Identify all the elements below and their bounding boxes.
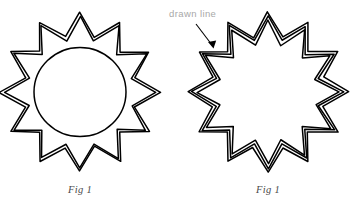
annotation-label: drawn line	[169, 8, 216, 19]
figure-illustration-canvas: drawn line Fig 1 Fig 1	[0, 0, 355, 204]
caption-left: Fig 1	[67, 184, 92, 195]
caption-right: Fig 1	[255, 184, 280, 195]
